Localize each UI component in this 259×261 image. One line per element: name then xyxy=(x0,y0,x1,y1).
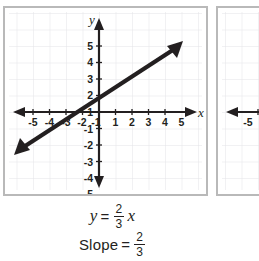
x-tick-label: 5 xyxy=(179,116,185,128)
coordinate-plane-next: -5 xyxy=(218,8,259,194)
y-tick-label: -1 xyxy=(84,123,93,135)
equation-operator: = xyxy=(100,208,111,225)
slope-label: Slope xyxy=(79,236,118,253)
x-tick-label: 2 xyxy=(129,116,135,128)
y-tick-label: 1 xyxy=(87,106,93,118)
x-axis-label: x xyxy=(197,105,204,120)
y-axis-label: y xyxy=(87,12,95,27)
equation-variable: x xyxy=(127,206,135,226)
slope-fraction: 2 3 xyxy=(134,231,145,258)
x-tick-label: -5 xyxy=(243,116,252,128)
graph-panel-next: -5 xyxy=(216,6,259,196)
slope-fraction-denominator: 3 xyxy=(134,246,145,258)
y-tick-label: -4 xyxy=(84,172,93,184)
y-tick-label: 2 xyxy=(87,89,93,101)
x-tick-label: 1 xyxy=(113,116,119,128)
slope-fraction-numerator: 2 xyxy=(134,231,145,243)
x-tick-label: 3 xyxy=(146,116,152,128)
equation-fraction-denominator: 3 xyxy=(114,218,125,230)
equation-lhs-variable: y xyxy=(90,206,98,226)
graph-panel-main: -5 -4 -3 -2 -1 1 2 3 4 5 5 4 3 2 1 -1 -2… xyxy=(3,6,208,196)
x-tick-label: -3 xyxy=(61,116,70,128)
y-tick-label: 5 xyxy=(87,40,93,52)
grid-lines xyxy=(222,12,259,190)
coordinate-plane-main: -5 -4 -3 -2 -1 1 2 3 4 5 5 4 3 2 1 -1 -2… xyxy=(5,8,206,194)
x-tick-label: -5 xyxy=(28,116,37,128)
y-tick-label: 3 xyxy=(87,73,93,85)
y-tick-label: -5 xyxy=(84,188,93,194)
slope-expression: Slope = 2 3 xyxy=(79,231,146,258)
slope-operator: = xyxy=(120,236,131,253)
caption-slope: Slope = 2 3 xyxy=(0,231,225,258)
grid-lines xyxy=(9,12,202,190)
y-tick-label: -2 xyxy=(84,139,93,151)
equation-fraction-numerator: 2 xyxy=(114,203,125,215)
x-tick-label: 4 xyxy=(162,116,168,128)
equation-fraction: 2 3 xyxy=(114,203,125,230)
y-tick-label: -3 xyxy=(84,156,93,168)
x-tick-label: -4 xyxy=(45,116,54,128)
caption-equation: y = 2 3 x xyxy=(0,203,225,230)
y-tick-label: 4 xyxy=(87,56,93,68)
equation-expression: y = 2 3 x xyxy=(90,203,135,230)
